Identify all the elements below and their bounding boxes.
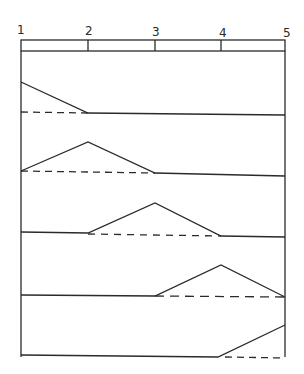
influence-line-node-3	[21, 203, 285, 237]
beam-bar	[21, 40, 285, 51]
influence-line-node-2	[21, 142, 285, 176]
influence-line-node-5	[21, 325, 285, 358]
influence-line-node-4	[21, 265, 285, 297]
influence-line-diagram	[0, 0, 304, 374]
influence-line-node-1	[21, 82, 285, 115]
